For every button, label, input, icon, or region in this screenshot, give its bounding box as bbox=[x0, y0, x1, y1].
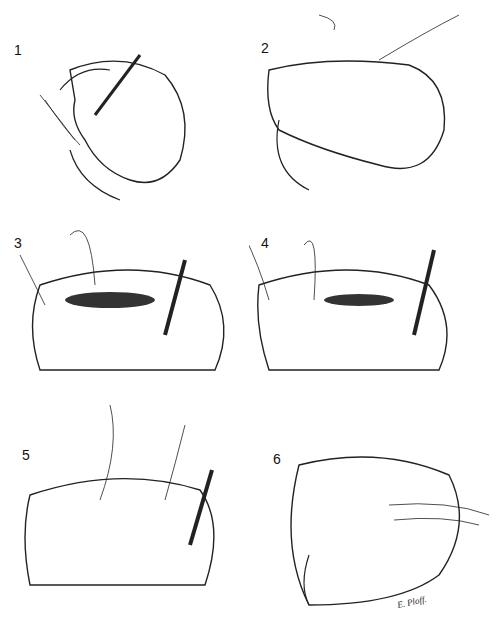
bowel-illustration-2 bbox=[249, 0, 497, 205]
bowel-illustration-1 bbox=[0, 0, 248, 205]
bowel-illustration-5 bbox=[0, 405, 248, 622]
panel-4: 4 bbox=[249, 205, 497, 405]
bowel-illustration-3 bbox=[0, 205, 248, 405]
panel-2: 2 bbox=[249, 0, 497, 205]
panel-5: 5 bbox=[0, 405, 248, 622]
bowel-illustration-4 bbox=[249, 205, 497, 405]
panel-1: 1 bbox=[0, 0, 248, 205]
bowel-illustration-6 bbox=[249, 405, 497, 622]
panel-6: 6 E. Ploff. bbox=[249, 405, 497, 622]
panel-3: 3 bbox=[0, 205, 248, 405]
